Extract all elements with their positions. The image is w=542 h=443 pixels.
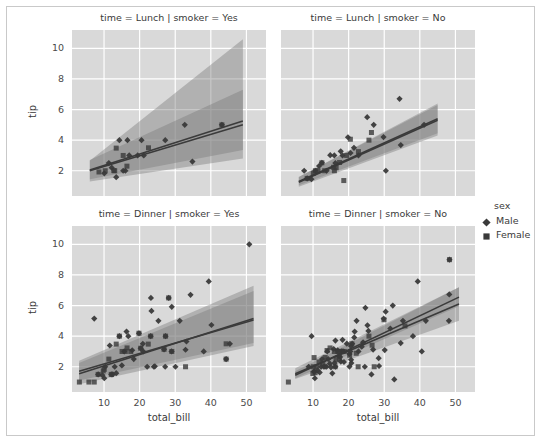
legend-item: Female [478, 229, 536, 242]
legend: sex MaleFemale [478, 200, 536, 250]
y-tick-label: 10 [34, 238, 64, 249]
x-tick-label: 10 [89, 397, 119, 408]
legend-item-label: Male [496, 215, 519, 226]
facet-title: time = Dinner | smoker = Yes [72, 208, 266, 219]
facet-title: time = Lunch | smoker = No [281, 12, 475, 23]
y-tick-label: 2 [34, 165, 64, 176]
facet-title: time = Dinner | smoker = No [281, 208, 475, 219]
y-axis-label: tip [27, 92, 38, 132]
x-axis-label: total_bill [72, 412, 266, 423]
y-tick-label: 6 [34, 104, 64, 115]
x-tick-label: 40 [196, 397, 226, 408]
y-tick-label: 2 [34, 361, 64, 372]
y-tick-label: 8 [34, 73, 64, 84]
plot-area [72, 226, 266, 392]
x-tick-label: 10 [298, 397, 328, 408]
x-tick-label: 20 [334, 397, 364, 408]
x-axis-label: total_bill [281, 412, 475, 423]
plot-area [281, 30, 475, 196]
x-tick-label: 50 [231, 397, 261, 408]
y-tick-label: 8 [34, 269, 64, 280]
y-tick-label: 10 [34, 42, 64, 53]
y-axis-label: tip [27, 288, 38, 328]
x-tick-label: 30 [160, 397, 190, 408]
legend-item: Male [478, 215, 536, 228]
x-tick-label: 40 [405, 397, 435, 408]
legend-item-label: Female [496, 229, 530, 240]
legend-title: sex [494, 200, 510, 211]
figure-root: time = Lunch | smoker = Yes246810tiptime… [0, 0, 542, 443]
y-tick-label: 4 [34, 330, 64, 341]
y-tick-label: 6 [34, 300, 64, 311]
plot-area [72, 30, 266, 196]
x-tick-label: 20 [125, 397, 155, 408]
square-marker-icon [481, 231, 492, 244]
y-tick-label: 4 [34, 134, 64, 145]
facet-title: time = Lunch | smoker = Yes [72, 12, 266, 23]
x-tick-label: 50 [440, 397, 470, 408]
x-tick-label: 30 [369, 397, 399, 408]
plot-area [281, 226, 475, 392]
